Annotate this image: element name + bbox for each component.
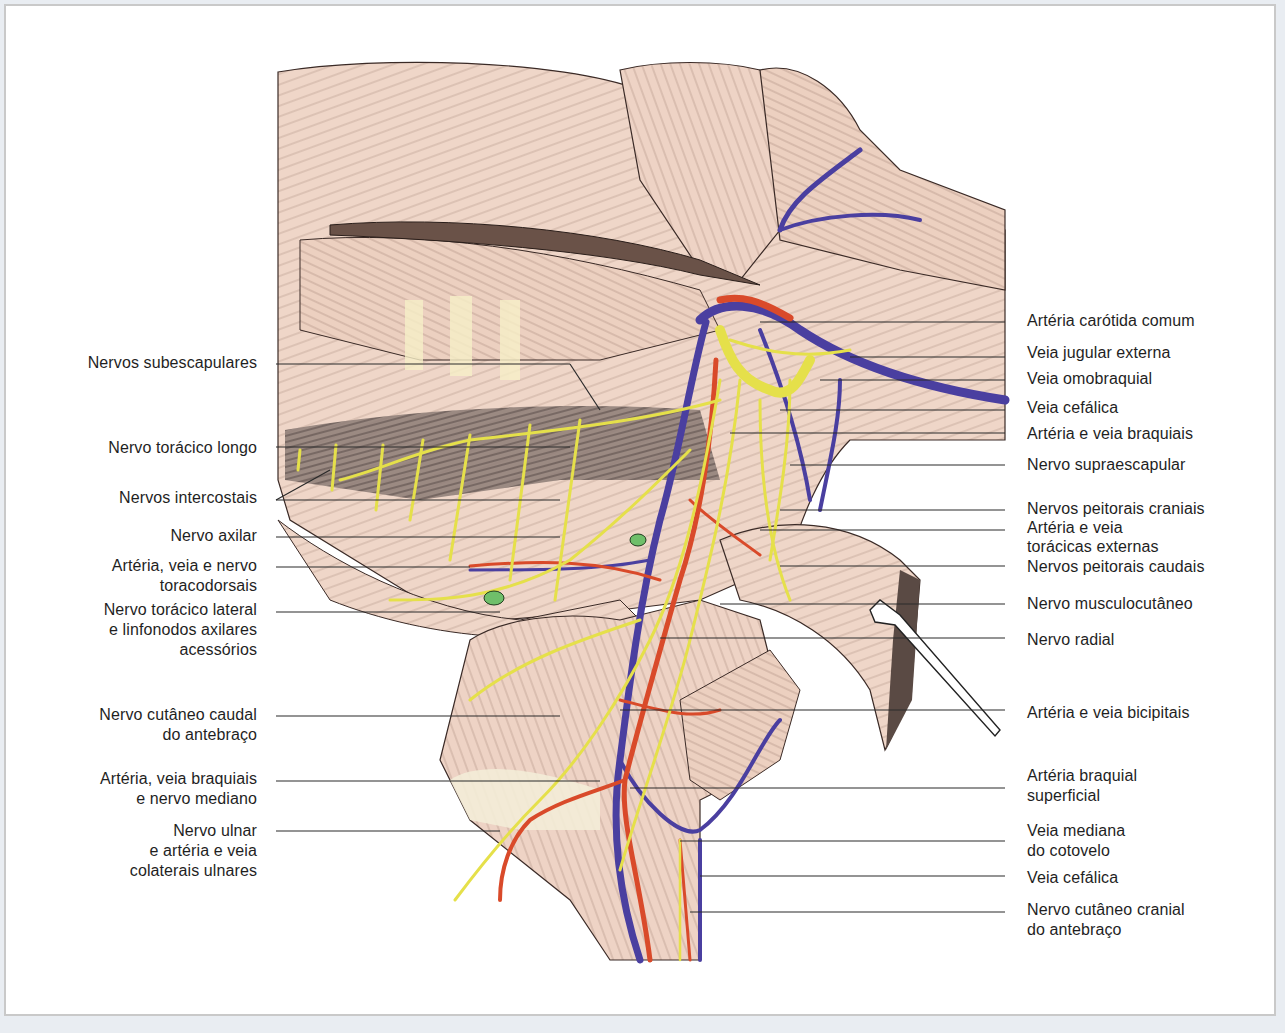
label-nervo-cutaneo-cranial-antebraco: Nervo cutâneo cranialdo antebraço — [1027, 900, 1185, 940]
label-veia-cefalica-1: Veia cefálica — [1027, 398, 1118, 418]
label-nervos-peitorais-craniais: Nervos peitorais craniais — [1027, 499, 1205, 519]
label-veia-cefalica-2: Veia cefálica — [1027, 868, 1118, 888]
label-arteria-braquial-superficial: Artéria braquialsuperficial — [1027, 766, 1137, 806]
label-nervos-intercostais: Nervos intercostais — [119, 488, 257, 508]
label-arteria-veia-bicipitais: Artéria e veia bicipitais — [1027, 703, 1190, 723]
label-arteria-veia-nervo-toracodorsais: Artéria, veia e nervotoracodorsais — [112, 556, 257, 596]
label-nervo-musculocutaneo: Nervo musculocutâneo — [1027, 594, 1193, 614]
label-veia-mediana-cotovelo: Veia medianado cotovelo — [1027, 821, 1125, 861]
label-nervos-peitorais-caudais: Nervos peitorais caudais — [1027, 557, 1205, 577]
label-nervo-toracico-lateral: Nervo torácico laterale linfonodos axila… — [104, 600, 257, 660]
label-nervo-radial: Nervo radial — [1027, 630, 1114, 650]
label-nervo-cutaneo-caudal-antebraco: Nervo cutâneo caudaldo antebraço — [99, 705, 257, 745]
label-arteria-carotida-comum: Artéria carótida comum — [1027, 311, 1195, 331]
label-nervo-axilar: Nervo axilar — [170, 526, 257, 546]
label-nervo-ulnar-arteria-veia-colaterais: Nervo ulnare artéria e veiacolaterais ul… — [130, 821, 257, 881]
label-nervos-subescapulares: Nervos subescapulares — [88, 353, 257, 373]
label-nervo-toracico-longo: Nervo torácico longo — [108, 438, 257, 458]
label-arteria-veia-toracicas-externas: Artéria e veiatorácicas externas — [1027, 518, 1159, 556]
label-veia-jugular-externa: Veia jugular externa — [1027, 343, 1170, 363]
muscle-masses — [278, 62, 1005, 960]
label-veia-omobraquial: Veia omobraquial — [1027, 369, 1152, 389]
label-arteria-veia-braquiais: Artéria e veia braquiais — [1027, 424, 1193, 444]
label-arteria-veia-braquiais-nervo-mediano: Artéria, veia braquiaise nervo mediano — [100, 769, 257, 809]
label-nervo-supraescapular: Nervo supraescapular — [1027, 455, 1186, 475]
